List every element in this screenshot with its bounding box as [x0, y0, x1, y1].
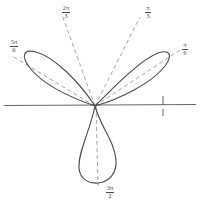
- label-pi-over-6-denominator: 6: [182, 49, 187, 57]
- label-2pi-over-3: 2π 3: [58, 5, 74, 19]
- label-2pi-over-3-denominator: 3: [62, 12, 71, 20]
- petal-axis-5pi-6: [12, 56, 95, 106]
- boundary-ray-pi-3: [95, 17, 140, 106]
- label-pi-over-6-numerator: π: [182, 42, 187, 49]
- boundary-ray-2pi-3: [63, 16, 96, 106]
- label-3pi-over-2-denominator: 2: [106, 192, 115, 200]
- label-3pi-over-2-numerator: 3π: [106, 185, 115, 192]
- upper-left-petal: [24, 51, 95, 106]
- petal-axis-pi-6: [95, 50, 180, 106]
- polar-rose-chart: 2π 3 π 3 5π 6 π 6 3π 2: [0, 0, 200, 202]
- label-pi-over-3-denominator: 3: [145, 12, 150, 20]
- label-5pi-over-6-numerator: 5π: [10, 39, 19, 46]
- label-pi-over-6: π 6: [178, 42, 192, 56]
- label-2pi-over-3-numerator: 2π: [62, 5, 71, 12]
- chart-canvas: [0, 0, 200, 202]
- upper-right-petal: [95, 52, 169, 106]
- label-3pi-over-2: 3π 2: [102, 185, 118, 199]
- label-pi-over-3: π 3: [141, 5, 155, 19]
- label-5pi-over-6-denominator: 6: [10, 46, 19, 54]
- petal-axis-3pi-2: [96, 106, 98, 186]
- label-pi-over-3-numerator: π: [145, 5, 150, 12]
- label-5pi-over-6: 5π 6: [6, 39, 22, 53]
